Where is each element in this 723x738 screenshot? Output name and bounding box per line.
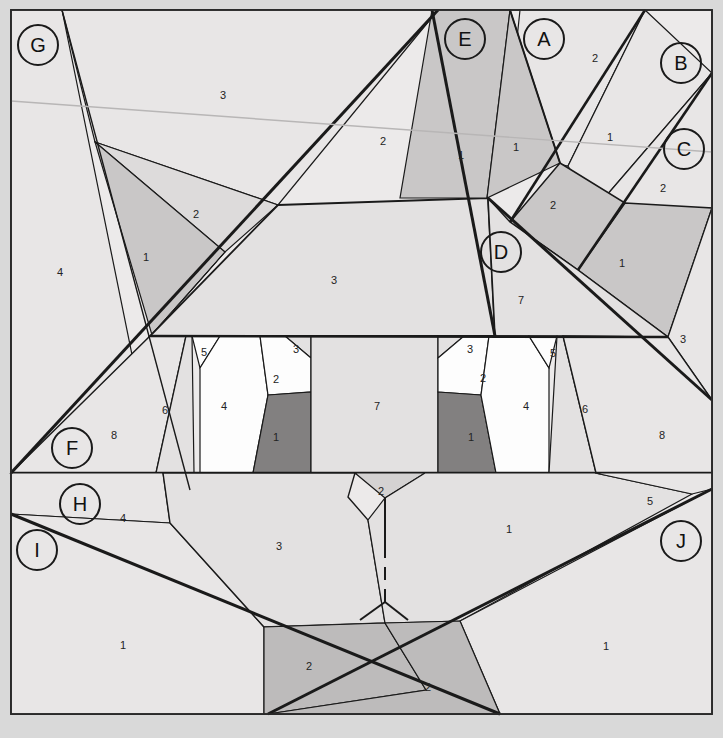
region-number-label: 3 bbox=[331, 274, 337, 286]
region-number-label: 1 bbox=[603, 640, 609, 652]
region-number-label: 1 bbox=[619, 257, 625, 269]
region-number-label: 7 bbox=[374, 400, 380, 412]
letter-badge-d[interactable]: D bbox=[480, 231, 522, 273]
letter-badge-a[interactable]: A bbox=[523, 18, 565, 60]
region-number-label: 4 bbox=[221, 400, 227, 412]
region-number-label: 3 bbox=[220, 89, 226, 101]
letter-badge-e[interactable]: E bbox=[444, 18, 486, 60]
region-number-label: 2 bbox=[592, 52, 598, 64]
letter-badge-h[interactable]: H bbox=[59, 483, 101, 525]
region-number-label: 8 bbox=[659, 429, 665, 441]
region-number-label: 5 bbox=[201, 346, 207, 358]
region-number-label: 8 bbox=[111, 429, 117, 441]
letter-badge-j[interactable]: J bbox=[660, 520, 702, 562]
leg-box-top-edge bbox=[150, 336, 668, 337]
region-number-label: 3 bbox=[680, 333, 686, 345]
region-number-label: 3 bbox=[293, 343, 299, 355]
region-number-label: 2 bbox=[480, 372, 486, 384]
region-number-label: 6 bbox=[582, 403, 588, 415]
region-number-label: 1 bbox=[607, 131, 613, 143]
letter-badge-i[interactable]: I bbox=[16, 529, 58, 571]
region-number-label: 4 bbox=[523, 400, 529, 412]
letter-badge-f[interactable]: F bbox=[51, 427, 93, 469]
region-number-label: 2 bbox=[660, 182, 666, 194]
letter-badge-b[interactable]: B bbox=[660, 42, 702, 84]
region-number-label: 2 bbox=[193, 208, 199, 220]
region-number-label: 2 bbox=[380, 135, 386, 147]
region-number-label: 3 bbox=[276, 540, 282, 552]
region-number-label: 5 bbox=[550, 347, 556, 359]
region-number-label: 1 bbox=[468, 431, 474, 443]
region-number-label: 6 bbox=[162, 404, 168, 416]
region-number-label: 4 bbox=[57, 266, 63, 278]
region-number-label: 1 bbox=[273, 431, 279, 443]
letter-badge-c[interactable]: C bbox=[663, 128, 705, 170]
region-number-label: 1 bbox=[458, 149, 464, 161]
region-number-label: 2 bbox=[306, 660, 312, 672]
geometric-figure-svg bbox=[0, 0, 723, 738]
region-number-label: 2 bbox=[273, 373, 279, 385]
region-number-label: 2 bbox=[550, 199, 556, 211]
region-number-label: 1 bbox=[120, 639, 126, 651]
region-number-label: 2 bbox=[425, 681, 431, 693]
region-number-label: 7 bbox=[518, 294, 524, 306]
region-number-label: 1 bbox=[143, 251, 149, 263]
letter-badge-g[interactable]: G bbox=[17, 24, 59, 66]
region-number-label: 2 bbox=[378, 485, 384, 497]
region-number-label: 3 bbox=[467, 343, 473, 355]
region-number-label: 1 bbox=[506, 523, 512, 535]
region-number-label: 1 bbox=[513, 141, 519, 153]
region-number-label: 4 bbox=[120, 512, 126, 524]
figure-container: 321121221214373532416873251468245311122 … bbox=[0, 0, 723, 738]
region-number-label: 5 bbox=[647, 495, 653, 507]
